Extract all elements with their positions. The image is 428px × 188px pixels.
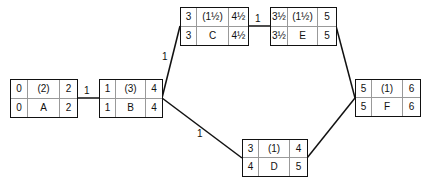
- earliest-finish: 2: [60, 80, 77, 99]
- earliest-finish: 6: [403, 80, 420, 98]
- earliest-start: 3½: [271, 8, 288, 27]
- node-d: 3 (1) 4 4 D 5: [242, 139, 308, 177]
- activity-name: A: [28, 99, 60, 118]
- duration: (1½): [197, 8, 229, 27]
- duration: (2): [28, 80, 60, 99]
- earliest-finish: 4½: [229, 8, 248, 27]
- activity-name: E: [288, 27, 318, 46]
- latest-start: 4: [243, 158, 259, 176]
- earliest-start: 3: [243, 140, 259, 158]
- edge-e-f: [336, 26, 355, 98]
- duration: (1): [372, 80, 403, 98]
- latest-start: 0: [11, 99, 28, 118]
- latest-start: 1: [100, 99, 116, 118]
- edge-d-f: [307, 98, 355, 158]
- earliest-start: 5: [356, 80, 372, 98]
- earliest-start: 1: [100, 80, 116, 99]
- latest-start: 5: [356, 98, 372, 116]
- duration: (1½): [288, 8, 318, 27]
- earliest-finish: 4: [146, 80, 162, 99]
- activity-name: F: [372, 98, 403, 116]
- edge-label-b-d: 1: [197, 129, 203, 139]
- earliest-finish: 5: [318, 8, 336, 27]
- duration: (3): [116, 80, 146, 99]
- latest-finish: 6: [403, 98, 420, 116]
- duration: (1): [259, 140, 290, 158]
- latest-finish: 2: [60, 99, 77, 118]
- node-b: 1 (3) 4 1 B 4: [99, 79, 163, 118]
- activity-name: C: [197, 27, 229, 46]
- edge-b-c: [162, 26, 180, 98]
- activity-name: B: [116, 99, 146, 118]
- node-e: 3½ (1½) 5 3½ E 5: [270, 7, 337, 46]
- latest-finish: 4½: [229, 27, 248, 46]
- node-a: 0 (2) 2 0 A 2: [10, 79, 78, 118]
- earliest-finish: 4: [290, 140, 307, 158]
- edge-label-c-e: 1: [255, 14, 261, 24]
- node-c: 3 (1½) 4½ 3 C 4½: [180, 7, 249, 46]
- earliest-start: 3: [181, 8, 197, 27]
- latest-finish: 5: [290, 158, 307, 176]
- latest-start: 3½: [271, 27, 288, 46]
- latest-start: 3: [181, 27, 197, 46]
- node-f: 5 (1) 6 5 F 6: [355, 79, 421, 117]
- edge-label-b-c: 1: [162, 52, 168, 62]
- activity-name: D: [259, 158, 290, 176]
- latest-finish: 4: [146, 99, 162, 118]
- edge-label-a-b: 1: [84, 86, 90, 96]
- latest-finish: 5: [318, 27, 336, 46]
- earliest-start: 0: [11, 80, 28, 99]
